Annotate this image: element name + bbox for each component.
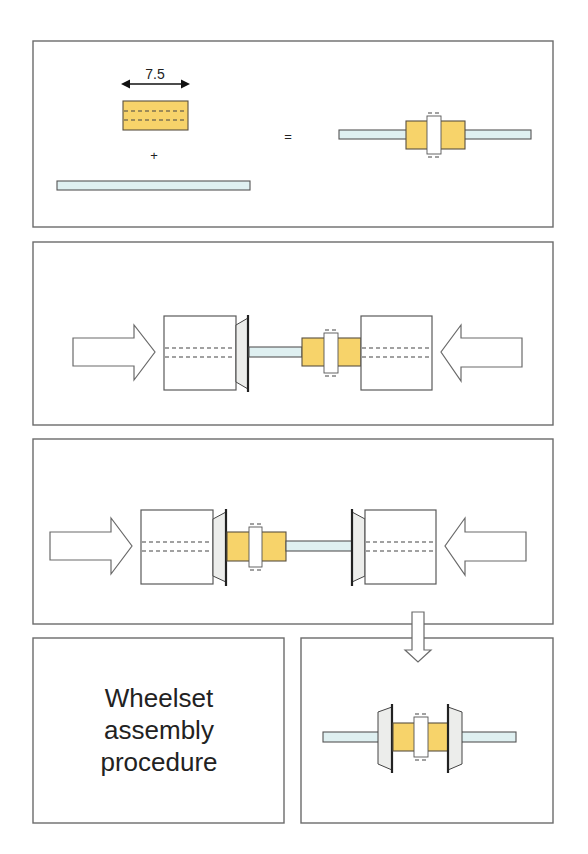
dimension-label: 7.5 bbox=[145, 66, 165, 82]
panel-step-1: 7.5 + = bbox=[33, 41, 553, 227]
axle bbox=[286, 541, 352, 551]
press-block-right bbox=[361, 316, 432, 390]
wheel-right bbox=[352, 509, 365, 586]
panel-step-4 bbox=[301, 638, 553, 823]
caption-line-1: Wheelset bbox=[105, 683, 214, 713]
wheel-left bbox=[213, 509, 226, 586]
panel-step-2 bbox=[33, 242, 553, 425]
press-block-right bbox=[365, 510, 436, 584]
plus-sign: + bbox=[150, 148, 158, 163]
press-block-left bbox=[141, 510, 213, 584]
panel-step-3 bbox=[33, 439, 553, 624]
wheelset-diagram: 7.5 + = bbox=[0, 0, 588, 854]
caption-line-3: procedure bbox=[100, 747, 217, 777]
gear-sleeve-part bbox=[123, 101, 188, 130]
panel-caption: Wheelset assembly procedure bbox=[33, 638, 284, 823]
wheel-left bbox=[236, 315, 248, 392]
axle bbox=[249, 347, 302, 357]
axle-part bbox=[57, 181, 250, 190]
equals-sign: = bbox=[284, 129, 292, 144]
press-block-left bbox=[164, 316, 236, 390]
caption-line-2: assembly bbox=[104, 715, 214, 745]
